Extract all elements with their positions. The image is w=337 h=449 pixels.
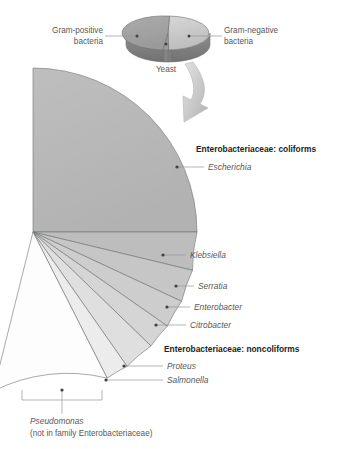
heading-coliforms: Enterobacteriaceae: coliforms [196,144,316,154]
leader-dot-escherichia [175,165,178,168]
heading-noncoliforms: Enterobacteriaceae: noncoliforms [164,344,300,354]
label-pseudomonas-note: (not in family Enterobacteriaceae) [30,429,153,438]
leader-dot-proteus [122,364,125,367]
bacteria-composition-figure: Gram-positive bacteria Gram-negative bac… [0,0,337,449]
label-pseudomonas: Pseudomonas [30,416,84,426]
leader-dot-gram-positive [136,35,139,38]
pie-yeast-side-face [163,49,172,61]
leader-dot-gram-negative [188,35,191,38]
label-enterobacter: Enterobacter [194,302,243,312]
expansion-arrow-icon [183,62,208,122]
top-pie-chart: Gram-positive bacteria Gram-negative bac… [52,16,279,74]
label-serratia: Serratia [198,281,228,291]
label-escherichia: Escherichia [208,162,252,172]
label-gram-negative-line1: Gram-negative [224,26,279,35]
label-salmonella: Salmonella [167,375,209,385]
label-citrobacter: Citrobacter [190,320,232,330]
leader-dot-enterobacter [165,305,168,308]
leader-dot-citrobacter [154,323,157,326]
label-gram-positive-line1: Gram-positive [52,26,103,35]
arrow-body [183,62,208,122]
leader-dot-serratia [174,284,177,287]
leader-dot-klebsiella [161,253,164,256]
leader-dot-pseudomonas [60,388,63,391]
leader-dot-salmonella [104,378,107,381]
label-proteus: Proteus [167,361,197,371]
label-gram-positive-line2: bacteria [74,37,104,46]
label-klebsiella: Klebsiella [190,250,226,260]
main-fan-chart [0,68,197,391]
label-yeast: Yeast [156,65,177,74]
fan-slice-escherichia[interactable] [33,68,197,232]
leader-dot-yeast [165,43,168,46]
label-gram-negative-line2: bacteria [224,37,254,46]
